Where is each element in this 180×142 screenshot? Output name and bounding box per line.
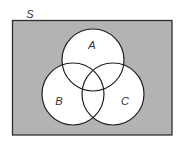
set-c-label: C (121, 95, 129, 107)
venn-diagram: S A B C (0, 0, 180, 142)
universe-label-s: S (26, 8, 34, 20)
set-b-label: B (55, 95, 62, 107)
set-a-label: A (87, 39, 95, 51)
